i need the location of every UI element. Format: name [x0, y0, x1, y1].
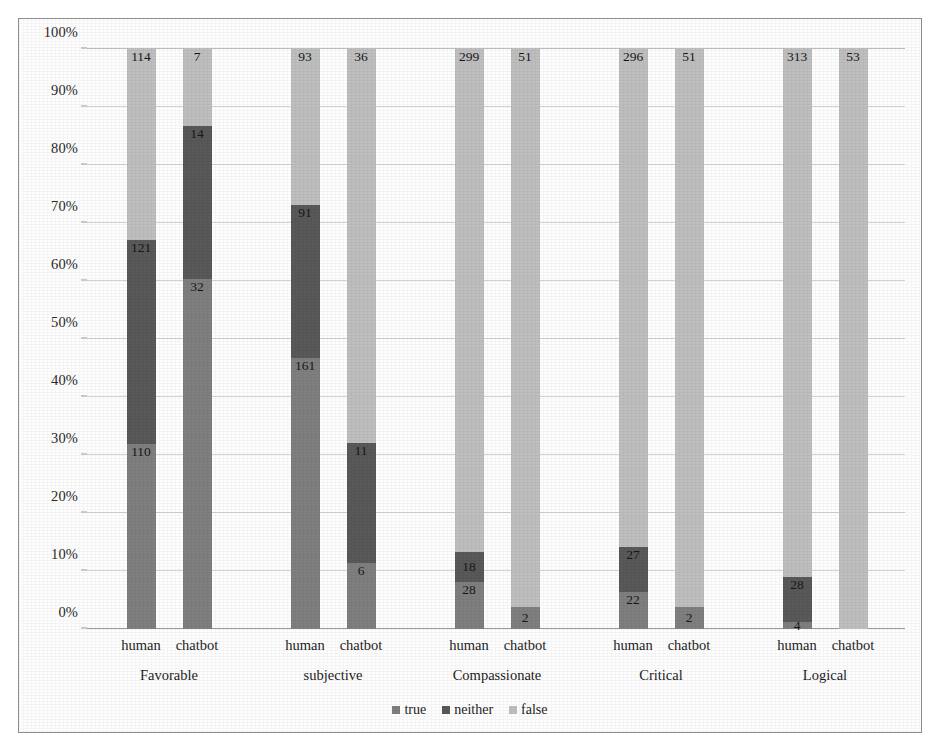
- y-tick-mark-100: [81, 48, 87, 49]
- segment-compassionate-human-true[interactable]: 28: [455, 582, 484, 629]
- data-label: 53: [846, 50, 860, 64]
- bar-critical-human[interactable]: 2227296: [619, 49, 648, 629]
- x-category-label-subjective: subjective: [304, 667, 363, 684]
- x-series-label-critical-chatbot: chatbot: [668, 637, 711, 654]
- chart-legend: trueneitherfalse: [19, 702, 921, 718]
- bar-favorable-human[interactable]: 110121114: [127, 49, 156, 629]
- segment-subjective-chatbot-neither[interactable]: 11: [347, 443, 376, 564]
- x-series-label-subjective-human: human: [285, 637, 324, 654]
- segment-subjective-human-neither[interactable]: 91: [291, 205, 320, 358]
- data-label: 36: [354, 50, 368, 64]
- y-tick-mark-90: [81, 106, 87, 107]
- data-label: 313: [787, 50, 807, 64]
- segment-favorable-chatbot-neither[interactable]: 14: [183, 126, 212, 279]
- segment-favorable-chatbot-false[interactable]: 7: [183, 49, 212, 126]
- x-series-label-favorable-chatbot: chatbot: [176, 637, 219, 654]
- bar-compassionate-human[interactable]: 2818299: [455, 49, 484, 629]
- y-tick-label-60: 60%: [51, 256, 78, 273]
- y-tick-label-30: 30%: [51, 430, 78, 447]
- segment-compassionate-chatbot-true[interactable]: 2: [511, 607, 540, 629]
- data-label: 18: [462, 560, 476, 574]
- data-label: 296: [623, 50, 643, 64]
- segment-favorable-human-neither[interactable]: 121: [127, 240, 156, 444]
- data-label: 51: [518, 50, 532, 64]
- data-label: 27: [626, 548, 640, 562]
- y-tick-label-70: 70%: [51, 198, 78, 215]
- legend-label: neither: [454, 702, 493, 718]
- segment-compassionate-human-false[interactable]: 299: [455, 49, 484, 552]
- y-tick-mark-80: [81, 164, 87, 165]
- data-label: 91: [298, 206, 312, 220]
- data-label: 93: [298, 50, 312, 64]
- y-tick-label-10: 10%: [51, 546, 78, 563]
- x-category-label-critical: Critical: [639, 667, 683, 684]
- data-label: 11: [355, 444, 368, 458]
- y-tick-label-40: 40%: [51, 372, 78, 389]
- data-label: 110: [131, 445, 151, 459]
- bar-critical-chatbot[interactable]: 251: [675, 49, 704, 629]
- segment-subjective-human-false[interactable]: 93: [291, 49, 320, 205]
- segment-critical-human-neither[interactable]: 27: [619, 547, 648, 592]
- bar-compassionate-chatbot[interactable]: 251: [511, 49, 540, 629]
- x-series-label-logical-chatbot: chatbot: [832, 637, 875, 654]
- legend-item-neither[interactable]: neither: [442, 702, 493, 718]
- segment-favorable-human-false[interactable]: 114: [127, 49, 156, 240]
- y-tick-label-50: 50%: [51, 314, 78, 331]
- y-tick-mark-50: [81, 338, 87, 339]
- data-label: 114: [131, 50, 151, 64]
- segment-critical-human-true[interactable]: 22: [619, 592, 648, 629]
- chart-figure: 0%10%20%30%40%50%60%70%80%90%100% 110121…: [18, 18, 922, 733]
- x-category-label-compassionate: Compassionate: [453, 667, 542, 684]
- segment-logical-chatbot-false[interactable]: 53: [839, 49, 868, 629]
- legend-label: true: [404, 702, 426, 718]
- segment-subjective-chatbot-true[interactable]: 6: [347, 563, 376, 629]
- bar-subjective-chatbot[interactable]: 61136: [347, 49, 376, 629]
- x-series-label-critical-human: human: [613, 637, 652, 654]
- legend-swatch-false-icon: [509, 706, 517, 714]
- segment-favorable-chatbot-true[interactable]: 32: [183, 279, 212, 629]
- data-label: 51: [682, 50, 696, 64]
- y-tick-mark-30: [81, 454, 87, 455]
- data-label: 28: [790, 578, 804, 592]
- x-series-label-logical-human: human: [777, 637, 816, 654]
- data-label: 32: [190, 280, 204, 294]
- y-tick-mark-20: [81, 512, 87, 513]
- segment-compassionate-chatbot-false[interactable]: 51: [511, 49, 540, 607]
- bar-logical-chatbot[interactable]: 53: [839, 49, 868, 629]
- x-series-label-compassionate-human: human: [449, 637, 488, 654]
- y-tick-label-80: 80%: [51, 140, 78, 157]
- segment-critical-chatbot-true[interactable]: 2: [675, 607, 704, 629]
- legend-item-true[interactable]: true: [392, 702, 426, 718]
- data-label: 28: [462, 583, 476, 597]
- y-tick-label-100: 100%: [44, 24, 78, 41]
- bar-subjective-human[interactable]: 1619193: [291, 49, 320, 629]
- data-label: 299: [459, 50, 479, 64]
- plot-area: 0%10%20%30%40%50%60%70%80%90%100% 110121…: [87, 49, 905, 629]
- y-tick-mark-60: [81, 280, 87, 281]
- legend-swatch-true-icon: [392, 706, 400, 714]
- segment-critical-human-false[interactable]: 296: [619, 49, 648, 547]
- bar-favorable-chatbot[interactable]: 32147: [183, 49, 212, 629]
- segment-critical-chatbot-false[interactable]: 51: [675, 49, 704, 607]
- segment-favorable-human-true[interactable]: 110: [127, 444, 156, 629]
- segment-subjective-chatbot-false[interactable]: 36: [347, 49, 376, 443]
- legend-label: false: [521, 702, 547, 718]
- data-label: 2: [686, 611, 693, 625]
- data-label: 121: [131, 241, 151, 255]
- y-tick-mark-40: [81, 396, 87, 397]
- data-label: 161: [295, 359, 315, 373]
- legend-item-false[interactable]: false: [509, 702, 547, 718]
- data-label: 6: [358, 564, 365, 578]
- segment-logical-human-neither[interactable]: 28: [783, 577, 812, 622]
- data-label: 22: [626, 593, 640, 607]
- segment-compassionate-human-neither[interactable]: 18: [455, 552, 484, 582]
- segment-logical-human-true[interactable]: 4: [783, 622, 812, 629]
- y-tick-label-20: 20%: [51, 488, 78, 505]
- y-tick-mark-10: [81, 570, 87, 571]
- segment-logical-human-false[interactable]: 313: [783, 49, 812, 577]
- legend-swatch-neither-icon: [442, 706, 450, 714]
- x-series-label-subjective-chatbot: chatbot: [340, 637, 383, 654]
- bar-logical-human[interactable]: 428313: [783, 49, 812, 629]
- segment-subjective-human-true[interactable]: 161: [291, 358, 320, 629]
- y-tick-mark-0: [81, 628, 87, 629]
